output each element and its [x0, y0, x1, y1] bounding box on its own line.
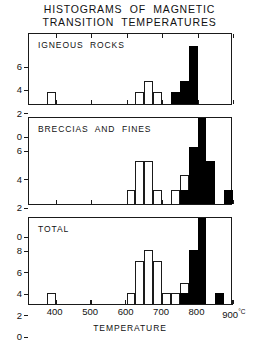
histogram-bar [144, 250, 153, 304]
x-tick-mark-inner [162, 200, 163, 204]
histogram-bar [127, 293, 136, 304]
figure-title: HISTOGRAMS OF MAGNETIC TRANSITION TEMPER… [0, 3, 259, 29]
y-tick-label: 6 [17, 61, 22, 72]
x-tick-label: 600 [118, 306, 134, 317]
x-axis-unit: °C [238, 308, 245, 315]
x-tick-label: 500 [82, 306, 98, 317]
x-tick-mark-inner [127, 100, 128, 104]
y-axis-igneous: 0246 [0, 66, 28, 138]
x-tick-mark-inner [198, 100, 199, 104]
title-line-1: HISTOGRAMS OF MAGNETIC [0, 3, 259, 16]
x-tick-mark-inner [91, 200, 92, 204]
y-axis-breccias: 0246 [0, 150, 28, 238]
y-tick-label: 0 [17, 331, 22, 342]
x-tick-mark-inner-top [56, 34, 57, 38]
histogram-bar [180, 190, 189, 204]
histogram-bar [189, 46, 198, 104]
x-tick-mark-inner-top [233, 34, 234, 38]
x-tick-label: 800 [189, 306, 205, 317]
histogram-bar [47, 293, 56, 304]
x-tick-label: 400 [47, 306, 63, 317]
x-tick-mark [232, 300, 233, 305]
histogram-bar [180, 81, 189, 104]
histogram-bar [180, 293, 189, 304]
y-tick-label: 2 [17, 108, 22, 119]
bars-breccias [29, 118, 231, 204]
x-tick-mark-inner-top [198, 34, 199, 38]
x-tick-mark-inner [233, 200, 234, 204]
x-tick-mark-inner [56, 100, 57, 104]
y-tick-label: 4 [17, 288, 22, 299]
histogram-bar [189, 147, 198, 204]
y-tick-mark [24, 113, 28, 114]
panel-breccias-and-fines: BRECCIAS AND FINES [28, 117, 232, 205]
title-line-2: TRANSITION TEMPERATURES [0, 16, 259, 29]
x-tick-mark-inner-top [162, 34, 163, 38]
histogram-bar [135, 161, 144, 204]
histogram-bar [153, 261, 162, 304]
panel-igneous-rocks: IGNEOUS ROCKS [28, 33, 232, 105]
x-tick-mark-inner [233, 100, 234, 104]
x-tick-mark-inner-top [127, 34, 128, 38]
y-tick-label: 2 [17, 310, 22, 321]
histogram-bar [224, 190, 233, 204]
y-tick-mark [24, 337, 28, 338]
histogram-bar [135, 261, 144, 304]
histogram-bar [171, 190, 180, 204]
y-tick-label: 0 [17, 131, 22, 142]
x-tick-label: 700 [153, 306, 169, 317]
histogram-bar [171, 92, 180, 104]
y-tick-label: 6 [17, 145, 22, 156]
histogram-bar [153, 92, 162, 104]
x-tick-mark-inner-top [91, 34, 92, 38]
x-tick-mark-inner [91, 300, 92, 304]
x-tick-mark-inner [56, 300, 57, 304]
histogram-bar [135, 92, 144, 104]
y-tick-label: 4 [17, 84, 22, 95]
histogram-bar [144, 161, 153, 204]
histogram-bar [198, 118, 207, 204]
x-tick-mark-inner [162, 100, 163, 104]
bars-igneous [29, 34, 231, 104]
histogram-bar [215, 293, 224, 304]
x-tick-mark-inner [56, 200, 57, 204]
y-tick-mark [24, 208, 28, 209]
y-tick-label: 0 [17, 231, 22, 242]
y-tick-label: 4 [17, 174, 22, 185]
histogram-bar [153, 190, 162, 204]
histogram-bar [127, 190, 136, 204]
x-axis-title: TEMPERATURE [28, 323, 232, 333]
histogram-bar [189, 250, 198, 304]
panel-total: TOTAL [28, 217, 232, 305]
histogram-bar [171, 293, 180, 304]
x-tick-mark-inner [233, 300, 234, 304]
histogram-bar [144, 81, 153, 104]
x-tick-mark-inner [91, 100, 92, 104]
bars-total [29, 218, 231, 304]
y-tick-label: 2 [17, 202, 22, 213]
histogram-bar [47, 92, 56, 104]
x-axis: TEMPERATURE 400500600700800900°C [28, 305, 232, 335]
x-tick-mark [90, 300, 91, 305]
y-tick-label: 8 [17, 245, 22, 256]
y-axis-total: 02468 [0, 250, 28, 338]
histogram-bar [162, 293, 171, 304]
histogram-bar [206, 161, 215, 204]
x-tick-label: 900°C [222, 306, 245, 320]
histogram-bar [198, 218, 207, 304]
y-tick-label: 6 [17, 267, 22, 278]
